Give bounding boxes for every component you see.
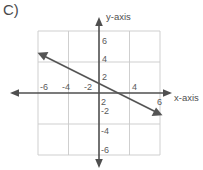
x-tick-label: -4 (62, 82, 70, 92)
x-axis-title: x-axis (174, 92, 199, 103)
arrow-left-icon (10, 89, 19, 97)
arrow-downright-icon (152, 107, 163, 116)
coordinate-plane: y-axis x-axis -6 -4 -2 2 4 6 6 4 2 -2 -4… (0, 0, 203, 170)
arrow-upleft-icon (38, 52, 49, 61)
y-tick-label: 4 (102, 54, 107, 64)
y-tick-label: 2 (102, 72, 107, 82)
arrow-up-icon (95, 17, 103, 26)
y-tick-label: 6 (102, 36, 107, 46)
y-tick-label: -4 (101, 126, 109, 136)
x-tick-label: 4 (132, 82, 137, 92)
line-segment (42, 55, 158, 113)
y-tick-label: -6 (101, 145, 109, 155)
x-tick-label: -2 (84, 82, 92, 92)
graph-figure: C) (0, 0, 203, 170)
x-tick-label: -6 (40, 82, 48, 92)
x-tick-label: 6 (157, 97, 162, 107)
y-tick-label: -2 (101, 106, 109, 116)
y-axis-title: y-axis (106, 11, 131, 22)
arrow-right-icon (163, 89, 172, 97)
arrow-down-icon (95, 159, 103, 168)
